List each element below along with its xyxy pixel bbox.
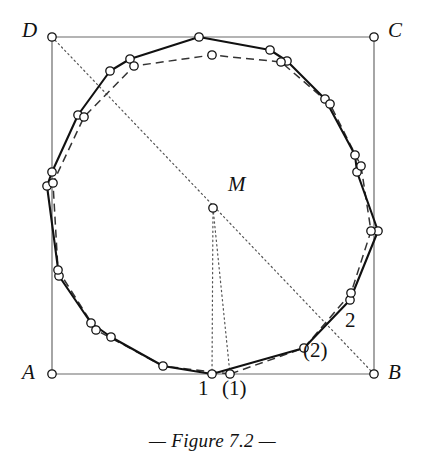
- corner-label-d: D: [22, 20, 37, 41]
- vertex-markers: [43, 33, 382, 378]
- geometry-diagram: [0, 0, 425, 476]
- vertex-label-1-paren: (1): [222, 378, 247, 399]
- vertex-label-2: 2: [345, 310, 356, 331]
- corner-label-c: C: [388, 20, 402, 41]
- figure-container: A B C D M 1(1)2(2) — Figure 7.2 —: [0, 0, 425, 476]
- corner-label-a: A: [22, 362, 35, 383]
- corner-label-b: B: [388, 362, 401, 383]
- vertex-label-2-paren: (2): [303, 340, 328, 361]
- figure-caption: — Figure 7.2 —: [0, 430, 425, 452]
- vertex-label-1: 1: [198, 378, 209, 399]
- center-label-m: M: [228, 174, 246, 195]
